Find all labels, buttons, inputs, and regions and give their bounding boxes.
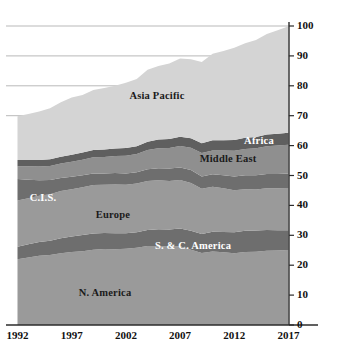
y-tick-label: 90	[297, 49, 323, 61]
series-label-n-america: N. America	[79, 287, 132, 298]
y-tick-label: 100	[297, 19, 323, 31]
x-tick-label: 1992	[0, 329, 38, 341]
x-tick-label: 1997	[52, 329, 92, 341]
y-tick-label: 60	[297, 139, 323, 151]
y-tick-label: 40	[297, 198, 323, 210]
y-tick-label: 20	[297, 258, 323, 270]
series-label-middle-east: Middle East	[200, 153, 257, 164]
y-tick-label: 70	[297, 109, 323, 121]
series-label-asia-pacific: Asia Pacific	[129, 90, 184, 101]
x-tick-label: 2002	[106, 329, 146, 341]
chart-plot-area	[0, 0, 341, 358]
series-label-s-c-america: S. & C. America	[155, 240, 231, 251]
series-label-c-i-s: C.I.S.	[30, 192, 57, 203]
y-tick-label: 80	[297, 79, 323, 91]
x-tick-label: 2007	[160, 329, 200, 341]
y-tick-label: 30	[297, 228, 323, 240]
y-tick-label: 50	[297, 169, 323, 181]
y-tick-label: 10	[297, 288, 323, 300]
series-label-europe: Europe	[96, 209, 130, 220]
area-series	[18, 246, 289, 325]
x-tick-label: 2012	[214, 329, 254, 341]
x-tick-label: 2017	[269, 329, 309, 341]
oil-consumption-stacked-area-chart: 0102030405060708090100 19921997200220072…	[0, 0, 341, 358]
series-label-africa: Africa	[244, 135, 274, 146]
